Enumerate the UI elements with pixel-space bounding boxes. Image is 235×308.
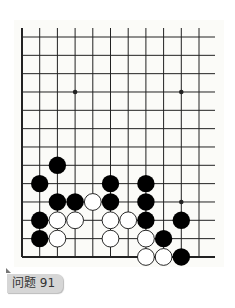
- white-stone: [138, 230, 155, 247]
- go-board: [0, 0, 235, 270]
- black-stone: [173, 248, 190, 265]
- white-stone: [84, 194, 101, 211]
- board-background: [14, 20, 224, 267]
- white-stone: [155, 249, 172, 266]
- black-stone: [66, 193, 83, 210]
- white-stone: [138, 249, 155, 266]
- black-stone: [49, 157, 66, 174]
- black-stone: [31, 175, 48, 192]
- problem-number: 问题 91: [7, 274, 63, 293]
- black-stone: [31, 230, 48, 247]
- black-stone: [49, 193, 66, 210]
- white-stone: [102, 212, 119, 229]
- white-stone: [49, 230, 66, 247]
- black-stone: [31, 212, 48, 229]
- white-stone: [67, 212, 84, 229]
- black-stone: [102, 193, 119, 210]
- white-stone: [102, 230, 119, 247]
- black-stone: [137, 193, 154, 210]
- star-point-icon: [179, 90, 184, 95]
- star-point-icon: [179, 200, 184, 205]
- white-stone: [120, 212, 137, 229]
- black-stone: [173, 212, 190, 229]
- black-stone: [155, 230, 172, 247]
- black-stone: [137, 212, 154, 229]
- white-stone: [49, 212, 66, 229]
- star-point-icon: [73, 90, 78, 95]
- black-stone: [137, 175, 154, 192]
- corner-marker-icon: [6, 268, 11, 273]
- black-stone: [102, 175, 119, 192]
